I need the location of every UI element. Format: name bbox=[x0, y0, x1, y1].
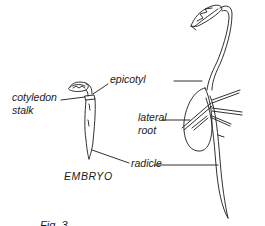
label-root: root bbox=[138, 124, 156, 136]
radicle-leader-left bbox=[92, 150, 129, 163]
epicotyl-leader-left bbox=[93, 84, 108, 94]
label-cotyledon: cotyledon bbox=[12, 91, 57, 103]
line-drawing bbox=[0, 0, 265, 226]
cotyledon-stalk-leader bbox=[61, 97, 85, 100]
figure-caption: Fig. 3 bbox=[40, 219, 68, 226]
embryo-drawing bbox=[69, 82, 96, 159]
label-epicotyl: epicotyl bbox=[110, 73, 146, 85]
seedling-diagram: epicotyl cotyledon stalk lateral root ra… bbox=[0, 0, 265, 226]
label-stalk: stalk bbox=[12, 104, 34, 116]
label-embryo: EMBRYO bbox=[64, 170, 113, 182]
seedling-drawing bbox=[182, 5, 242, 218]
label-lateral: lateral bbox=[138, 111, 167, 123]
label-radicle: radicle bbox=[131, 157, 162, 169]
